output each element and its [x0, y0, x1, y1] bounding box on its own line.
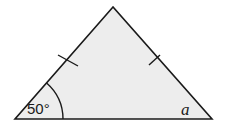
angle-label-50: 50° [27, 100, 50, 117]
triangle-figure: 50° a [0, 0, 225, 130]
angle-label-a: a [181, 100, 190, 119]
isosceles-triangle-diagram: 50° a [0, 0, 225, 130]
